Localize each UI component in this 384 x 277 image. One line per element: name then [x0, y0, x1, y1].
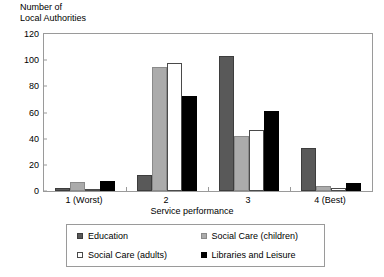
- legend-entry: Libraries and Leisure: [201, 250, 325, 260]
- legend-label: Social Care (children): [212, 231, 299, 241]
- bar: [219, 56, 234, 191]
- legend-swatch-icon: [77, 252, 83, 258]
- bar: [85, 189, 100, 191]
- bar-group: [290, 34, 372, 191]
- x-axis-tick-label: 4 (Best): [314, 195, 346, 205]
- legend-entry: Education: [77, 231, 201, 241]
- y-axis-tick-label: 100: [24, 55, 44, 65]
- bar: [70, 182, 85, 191]
- y-axis-tick-label: 60: [29, 108, 44, 118]
- bar: [167, 63, 182, 191]
- y-axis-title: Number of Local Authorities: [20, 2, 86, 24]
- legend-swatch-icon: [77, 233, 83, 239]
- legend-label: Libraries and Leisure: [212, 250, 296, 260]
- bar: [346, 183, 361, 191]
- bar: [55, 188, 70, 191]
- legend-label: Education: [88, 231, 128, 241]
- bar: [234, 136, 249, 191]
- legend-label: Social Care (adults): [88, 250, 167, 260]
- y-axis-tick-label: 120: [24, 29, 44, 39]
- bar: [137, 175, 152, 191]
- legend-swatch-icon: [201, 233, 207, 239]
- bar: [316, 186, 331, 191]
- y-axis-tick-label: 0: [34, 186, 44, 196]
- x-axis-tick-mark: [126, 187, 127, 191]
- bar-group: [126, 34, 208, 191]
- y-axis-tick-label: 40: [29, 134, 44, 144]
- x-axis-tick-label: 3: [245, 195, 250, 205]
- y-axis-tick-label: 80: [29, 81, 44, 91]
- bar: [331, 188, 346, 191]
- bar-group: [44, 34, 126, 191]
- legend-swatch-icon: [201, 252, 207, 258]
- bar: [152, 67, 167, 191]
- bar: [301, 148, 316, 191]
- bar: [100, 181, 115, 191]
- x-axis-tick-label: 2: [163, 195, 168, 205]
- legend-entry: Social Care (children): [201, 231, 325, 241]
- plot-area: 020406080100120: [43, 33, 373, 192]
- x-axis-title: Service performance: [0, 206, 384, 216]
- bars-layer: [44, 34, 372, 191]
- bar: [249, 130, 264, 191]
- bar: [182, 96, 197, 192]
- y-axis-tick-label: 20: [29, 160, 44, 170]
- x-axis-tick-mark: [290, 187, 291, 191]
- chart-legend: EducationSocial Care (children)Social Ca…: [66, 224, 325, 267]
- bar-group: [208, 34, 290, 191]
- bar: [264, 111, 279, 191]
- x-axis-tick-mark: [208, 187, 209, 191]
- legend-entry: Social Care (adults): [77, 250, 201, 260]
- x-axis-tick-label: 1 (Worst): [66, 195, 103, 205]
